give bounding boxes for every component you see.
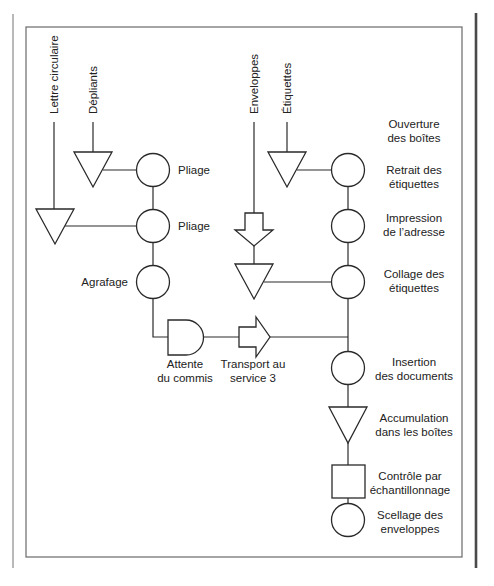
- step-label-transport-2: service 3: [230, 372, 276, 384]
- input-label-depliants: Dépliants: [87, 66, 99, 114]
- operation-circle-icon: [332, 504, 365, 537]
- operation-circle-icon: [332, 352, 365, 385]
- step-label-collage-1: Collage des: [384, 268, 445, 280]
- step-label-pliage-2: Pliage: [178, 220, 210, 232]
- input-label-enveloppes: Enveloppes: [248, 54, 260, 114]
- step-label-pliage-1: Pliage: [178, 164, 210, 176]
- operation-circle-icon: [137, 210, 170, 243]
- operation-circle-icon: [137, 154, 170, 187]
- step-label-attente-1: Attente: [167, 358, 203, 370]
- operation-circle-icon: [137, 266, 170, 299]
- step-label-insertion-2: des documents: [375, 370, 453, 382]
- inspection-square-icon: [332, 465, 365, 498]
- step-label-accumulation-1: Accumulation: [379, 412, 448, 424]
- step-label-retrait-1: Retrait des: [386, 164, 442, 176]
- step-label-scellage-1: Scellage des: [377, 509, 443, 521]
- process-flow-diagram: Lettre circulaire Dépliants Enveloppes É…: [0, 0, 494, 586]
- step-label-agrafage: Agrafage: [81, 276, 128, 288]
- input-label-etiquettes: Étiquettes: [281, 63, 293, 114]
- step-label-impression-1: Impression: [386, 212, 442, 224]
- storage-triangle-icon: [329, 407, 367, 443]
- transport-down-arrow-icon: [235, 213, 273, 246]
- step-label-scellage-2: enveloppes: [381, 523, 440, 535]
- step-label-transport-1: Transport au: [221, 358, 286, 370]
- step-label-retrait-2: étiquettes: [389, 178, 439, 190]
- operation-circle-icon: [332, 210, 365, 243]
- step-label-accumulation-2: dans les boîtes: [375, 426, 453, 438]
- transport-arrow-icon: [239, 317, 270, 357]
- input-label-lettre: Lettre circulaire: [48, 35, 60, 114]
- step-label-collage-2: étiquettes: [389, 282, 439, 294]
- step-label-controle-2: échantillonnage: [370, 484, 451, 496]
- operation-circle-icon: [332, 154, 365, 187]
- step-label-impression-2: de l’adresse: [383, 226, 445, 238]
- operation-circle-icon: [332, 266, 365, 299]
- step-label-ouverture-1: Ouverture: [388, 118, 439, 130]
- step-label-attente-2: du commis: [157, 372, 213, 384]
- step-label-insertion-1: Insertion: [392, 356, 436, 368]
- delay-d-icon: [168, 320, 204, 355]
- step-label-controle-1: Contrôle par: [378, 470, 441, 482]
- step-label-ouverture-2: des boîtes: [387, 132, 440, 144]
- agrafage-to-attente-line: [153, 298, 168, 337]
